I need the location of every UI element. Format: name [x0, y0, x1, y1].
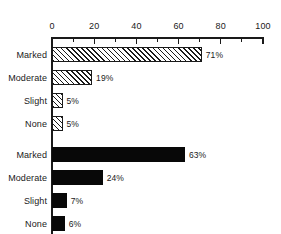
x-tick-minor — [157, 37, 158, 42]
x-tick-minor — [199, 37, 200, 42]
x-tick-minor — [73, 37, 74, 42]
x-tick-label: 20 — [89, 21, 99, 31]
x-tick-major — [51, 37, 52, 44]
bar-value-label: 71% — [206, 50, 223, 59]
bar-category-label: Marked — [16, 150, 47, 160]
bar-value-label: 63% — [189, 150, 206, 159]
bar-category-label: None — [25, 119, 47, 129]
plot-area: 020406080100 Marked71%Moderate19%Slight5… — [0, 0, 281, 234]
bar-value-label: 6% — [69, 219, 82, 228]
bar-value-label: 19% — [96, 73, 113, 82]
bar-chart: 020406080100 Marked71%Moderate19%Slight5… — [0, 0, 281, 234]
x-tick-major — [136, 37, 137, 44]
bar-row: Slight7% — [0, 193, 281, 208]
bar-row: None5% — [0, 116, 281, 131]
x-tick-label: 80 — [216, 21, 226, 31]
bar-hatched — [52, 47, 202, 62]
bar-row: Moderate24% — [0, 170, 281, 185]
bar-row: Moderate19% — [0, 70, 281, 85]
x-tick-label: 100 — [255, 21, 271, 31]
x-tick-major — [94, 37, 95, 44]
bar-value-label: 7% — [71, 196, 84, 205]
bar-solid — [52, 216, 65, 231]
bar-hatched — [52, 93, 63, 108]
bar-value-label: 24% — [107, 173, 124, 182]
x-tick-minor — [115, 37, 116, 42]
bar-solid — [52, 170, 103, 185]
bar-hatched — [52, 116, 63, 131]
bar-solid — [52, 147, 185, 162]
bar-value-label: 5% — [67, 119, 80, 128]
bar-solid — [52, 193, 67, 208]
bar-row: Marked71% — [0, 47, 281, 62]
x-tick-minor — [241, 37, 242, 42]
bar-category-label: Slight — [24, 196, 47, 206]
x-tick-major — [220, 37, 221, 44]
x-tick-label: 0 — [49, 21, 54, 31]
bar-value-label: 5% — [67, 96, 80, 105]
bar-category-label: Moderate — [8, 173, 47, 183]
x-tick-major — [178, 37, 179, 44]
bar-hatched — [52, 70, 92, 85]
bar-category-label: Moderate — [8, 73, 47, 83]
bar-row: Marked63% — [0, 147, 281, 162]
bar-category-label: None — [25, 219, 47, 229]
bar-row: Slight5% — [0, 93, 281, 108]
bar-row: None6% — [0, 216, 281, 231]
x-tick-major — [262, 37, 263, 44]
x-tick-label: 60 — [173, 21, 183, 31]
x-tick-label: 40 — [131, 21, 141, 31]
bar-category-label: Marked — [16, 50, 47, 60]
bar-category-label: Slight — [24, 96, 47, 106]
